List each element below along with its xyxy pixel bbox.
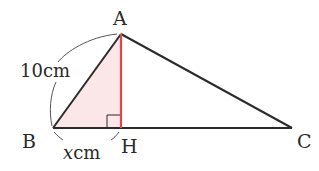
- variable-x: x: [63, 142, 73, 163]
- length-label-ab: 10cm: [20, 60, 70, 81]
- triangle-diagram: A B H C 10cm xcm: [0, 0, 319, 171]
- vertex-label-c: C: [297, 130, 312, 152]
- length-arc-bh-right: [111, 132, 119, 140]
- side-ac: [121, 34, 292, 128]
- length-arc-bh: [54, 132, 63, 140]
- vertex-label-h: H: [121, 135, 138, 157]
- unit-cm: cm: [73, 142, 100, 163]
- length-arc-ab-lower: [50, 82, 56, 126]
- vertex-label-a: A: [112, 7, 127, 29]
- vertex-label-b: B: [22, 130, 36, 152]
- length-label-bh: xcm: [63, 142, 100, 163]
